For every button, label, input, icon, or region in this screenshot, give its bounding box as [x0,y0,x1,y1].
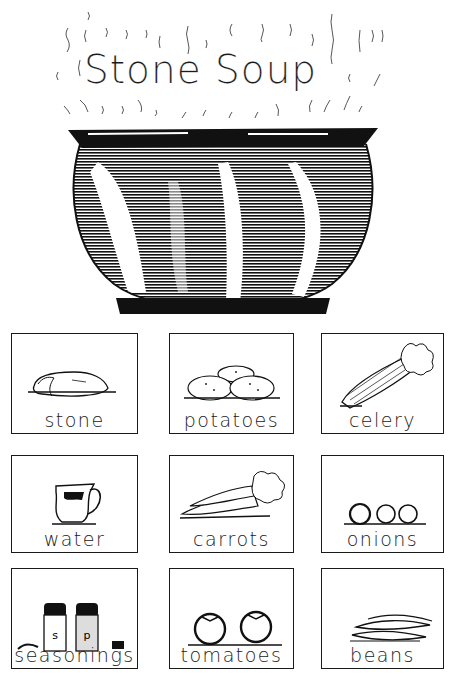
card-label: potatoes [170,409,293,431]
pepper-letter: p [84,629,91,642]
ingredient-card-stone: stone [11,333,138,434]
ingredient-card-tomatoes: tomatoes [169,568,294,669]
ingredient-card-onions: onions [321,455,444,553]
card-label: celery [322,409,443,431]
card-label: tomatoes [170,644,293,666]
ingredient-card-potatoes: potatoes [169,333,294,434]
card-label: water [12,528,137,550]
salt-letter: s [52,629,58,642]
card-label: beans [322,644,443,666]
worksheet-title: Stone Soup [84,50,317,89]
ingredient-card-beans: beans [321,568,444,669]
card-label: seasonings [12,644,137,666]
ingredient-card-water: water [11,455,138,553]
card-label: onions [322,528,443,550]
ingredient-card-seasonings: s p seasonings [11,568,138,669]
ingredient-card-celery: celery [321,333,444,434]
ingredient-card-carrots: carrots [169,455,294,553]
card-label: carrots [170,528,293,550]
card-label: stone [12,409,137,431]
soup-pot-illustration [68,122,378,318]
